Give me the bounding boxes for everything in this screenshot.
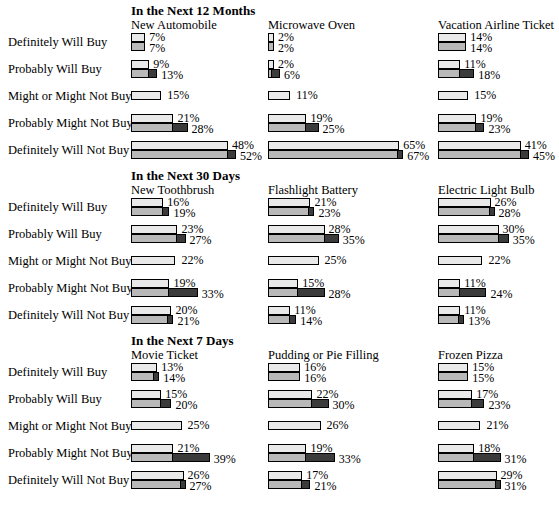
bar-upper bbox=[131, 225, 177, 234]
bar-value-lower: 45% bbox=[533, 150, 555, 162]
bar-value-lower: 7% bbox=[149, 42, 165, 54]
bar-upper bbox=[268, 306, 290, 315]
bar-increment-segment bbox=[176, 235, 184, 242]
row-label: Probably Might Not Buy bbox=[8, 447, 133, 460]
bar-increment-segment bbox=[520, 151, 528, 158]
bar-value-lower: 23% bbox=[318, 207, 340, 219]
bar-upper bbox=[131, 198, 163, 207]
bar-upper bbox=[268, 471, 302, 480]
row-label: Definitely Will Buy bbox=[8, 201, 107, 214]
bar-value-lower: 14% bbox=[163, 372, 185, 384]
bar-upper bbox=[438, 225, 499, 234]
bar-upper bbox=[438, 444, 474, 453]
bar-upper bbox=[438, 306, 460, 315]
row-label: Definitely Will Buy bbox=[8, 366, 107, 379]
bar-lower bbox=[131, 123, 188, 132]
bar-lower bbox=[131, 234, 186, 243]
bar-upper bbox=[438, 471, 497, 480]
bar-upper bbox=[438, 421, 480, 430]
bar-upper bbox=[131, 33, 145, 42]
bar-value-lower: 25% bbox=[323, 123, 345, 135]
bar-upper bbox=[131, 91, 161, 100]
bar-upper bbox=[131, 114, 173, 123]
column-title: Vacation Airline Ticket bbox=[438, 19, 554, 32]
bar-value-lower: 24% bbox=[490, 288, 512, 300]
bar-value-lower: 28% bbox=[192, 123, 214, 135]
bar-increment-segment bbox=[148, 70, 156, 77]
bar-upper bbox=[268, 33, 274, 42]
bar-value-lower: 13% bbox=[468, 315, 490, 327]
bar-lower bbox=[438, 453, 501, 462]
bar-value-lower: 13% bbox=[161, 69, 183, 81]
bar-value-lower: 21% bbox=[177, 315, 199, 327]
bar-lower bbox=[131, 315, 173, 324]
bar-upper bbox=[131, 60, 149, 69]
bar-value-lower: 21% bbox=[314, 480, 336, 492]
bar-upper bbox=[438, 141, 521, 150]
bar-increment-segment bbox=[324, 235, 338, 242]
bar-upper bbox=[268, 141, 399, 150]
bar-lower bbox=[268, 234, 339, 243]
section-heading: In the Next 7 Days bbox=[131, 334, 234, 348]
bar-value-upper: 15% bbox=[474, 89, 496, 101]
bar-upper bbox=[268, 91, 290, 100]
bar-value-lower: 33% bbox=[202, 288, 224, 300]
bar-upper bbox=[268, 225, 325, 234]
row-label: Definitely Will Buy bbox=[8, 36, 107, 49]
bar-value-upper: 22% bbox=[181, 254, 203, 266]
bar-upper bbox=[131, 390, 161, 399]
bar-lower bbox=[438, 480, 501, 489]
bar-increment-segment bbox=[168, 289, 196, 296]
row-label: Might or Might Not Buy bbox=[8, 420, 132, 433]
bar-value-lower: 15% bbox=[472, 372, 494, 384]
bar-value-lower: 19% bbox=[173, 207, 195, 219]
bar-increment-segment bbox=[471, 400, 483, 407]
bar-lower bbox=[438, 372, 468, 381]
bar-lower bbox=[268, 150, 403, 159]
section-heading: In the Next 30 Days bbox=[131, 169, 240, 183]
bar-increment-segment bbox=[227, 151, 235, 158]
bar-lower bbox=[131, 69, 157, 78]
bar-lower bbox=[131, 288, 198, 297]
row-label: Might or Might Not Buy bbox=[8, 90, 132, 103]
bar-value-lower: 6% bbox=[284, 69, 300, 81]
bar-lower bbox=[438, 315, 464, 324]
column-title: Electric Light Bulb bbox=[438, 184, 535, 197]
bar-value-upper: 15% bbox=[167, 89, 189, 101]
bar-upper bbox=[438, 114, 476, 123]
bar-value-lower: 33% bbox=[339, 453, 361, 465]
bar-upper bbox=[131, 363, 157, 372]
bar-upper bbox=[268, 390, 312, 399]
bar-increment-segment bbox=[498, 235, 508, 242]
bar-upper bbox=[268, 363, 300, 372]
bar-upper bbox=[131, 256, 175, 265]
row-label: Definitely Will Not Buy bbox=[8, 309, 129, 322]
bar-value-lower: 27% bbox=[190, 480, 212, 492]
bar-value-upper: 21% bbox=[486, 419, 508, 431]
bar-upper bbox=[268, 279, 298, 288]
bar-upper bbox=[438, 91, 468, 100]
bar-increment-segment bbox=[289, 316, 295, 323]
bar-increment-segment bbox=[397, 151, 402, 158]
bar-value-lower: 16% bbox=[304, 372, 326, 384]
bar-upper bbox=[131, 279, 169, 288]
bar-increment-segment bbox=[459, 289, 485, 296]
bar-value-lower: 35% bbox=[343, 234, 365, 246]
bar-value-lower: 23% bbox=[488, 399, 510, 411]
bar-lower bbox=[268, 42, 274, 51]
bar-upper bbox=[131, 471, 184, 480]
bar-value-lower: 28% bbox=[499, 207, 521, 219]
bar-lower bbox=[438, 399, 484, 408]
bar-increment-segment bbox=[495, 481, 500, 488]
bar-increment-segment bbox=[305, 454, 333, 461]
bar-increment-segment bbox=[459, 70, 473, 77]
bar-value-upper: 22% bbox=[488, 254, 510, 266]
bar-increment-segment bbox=[153, 373, 158, 380]
bar-value-lower: 31% bbox=[505, 480, 527, 492]
bar-increment-segment bbox=[489, 208, 494, 215]
chart-section: In the Next 12 MonthsDefinitely Will Buy… bbox=[0, 0, 559, 168]
row-label: Probably Might Not Buy bbox=[8, 282, 133, 295]
bar-value-lower: 39% bbox=[214, 453, 236, 465]
bar-lower bbox=[131, 453, 210, 462]
bar-lower bbox=[438, 234, 509, 243]
